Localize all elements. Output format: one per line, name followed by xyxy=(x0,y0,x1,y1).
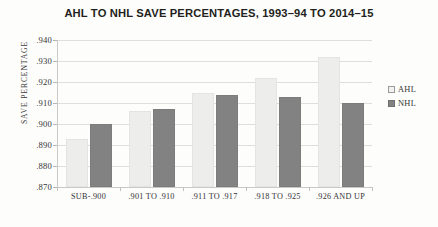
bar-nhl-0[interactable] xyxy=(90,124,112,187)
y-tick-label: .910 xyxy=(8,98,52,108)
x-tick-label: SUB-.900 xyxy=(57,192,120,201)
x-tick-mark xyxy=(183,187,184,191)
bar-ahl-1[interactable] xyxy=(129,111,151,187)
bar-group xyxy=(57,40,120,187)
bar-group xyxy=(183,40,246,187)
bar-group xyxy=(309,40,372,187)
x-tick-mark xyxy=(309,187,310,191)
bar-nhl-3[interactable] xyxy=(279,97,301,187)
bar-chart: AHL TO NHL SAVE PERCENTAGES, 1993–94 TO … xyxy=(0,0,438,227)
x-tick-mark xyxy=(246,187,247,191)
x-tick-mark xyxy=(372,187,373,191)
bar-ahl-0[interactable] xyxy=(66,139,88,187)
x-tick-label: .926 AND UP xyxy=(309,192,372,201)
chart-legend: AHLNHL xyxy=(388,85,416,113)
x-tick-mark xyxy=(120,187,121,191)
y-tick-label: .930 xyxy=(8,56,52,66)
bar-group xyxy=(246,40,309,187)
y-tick-label: .940 xyxy=(8,35,52,45)
y-tick-label: .890 xyxy=(8,140,52,150)
legend-item-ahl[interactable]: AHL xyxy=(388,85,416,94)
y-tick-label: .920 xyxy=(8,77,52,87)
legend-label: AHL xyxy=(398,85,416,94)
bar-nhl-1[interactable] xyxy=(153,109,175,187)
chart-title: AHL TO NHL SAVE PERCENTAGES, 1993–94 TO … xyxy=(0,7,438,19)
gridline xyxy=(58,187,372,188)
legend-label: NHL xyxy=(398,99,416,108)
bars-layer xyxy=(57,40,372,187)
bar-nhl-4[interactable] xyxy=(342,103,364,187)
y-tick-label: .880 xyxy=(8,161,52,171)
x-tick-label: .901 TO .910 xyxy=(120,192,183,201)
x-tick-mark xyxy=(57,187,58,191)
bar-nhl-2[interactable] xyxy=(216,95,238,187)
bar-ahl-3[interactable] xyxy=(255,78,277,187)
bar-ahl-4[interactable] xyxy=(318,57,340,187)
y-tick-label: .870 xyxy=(8,182,52,192)
bar-group xyxy=(120,40,183,187)
legend-item-nhl[interactable]: NHL xyxy=(388,99,416,108)
y-tick-label: .900 xyxy=(8,119,52,129)
x-tick-label: .918 TO .925 xyxy=(246,192,309,201)
x-tick-label: .911 TO .917 xyxy=(183,192,246,201)
legend-swatch-ahl-icon xyxy=(388,86,395,93)
legend-swatch-nhl-icon xyxy=(388,100,395,107)
bar-ahl-2[interactable] xyxy=(192,93,214,188)
